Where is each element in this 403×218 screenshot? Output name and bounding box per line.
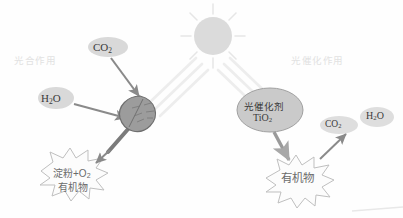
h2o-right-tail: O xyxy=(377,110,384,121)
co2-right-subscript: 2 xyxy=(338,122,341,129)
tio2-formula: TiO xyxy=(253,112,269,123)
photocatalyst-formula-label: TiO2 xyxy=(253,112,272,123)
h2o-left-tail: O xyxy=(53,92,61,104)
h2o-left-label: H2O xyxy=(41,92,61,106)
arrow-leaf-to-starch xyxy=(96,150,110,163)
light-beam-left xyxy=(148,58,208,116)
section-label-photocatalysis: 光催化作用 xyxy=(291,53,344,67)
arrow-organic-to-gases xyxy=(320,134,346,159)
starch-output-formula: 淀粉+O xyxy=(53,168,87,179)
tio2-subscript: 2 xyxy=(269,116,272,123)
sun-icon xyxy=(181,4,245,68)
h2o-left-formula: H xyxy=(41,92,49,104)
organic-matter-right-label: 有机物 xyxy=(281,169,314,185)
h2o-right-label: H2O xyxy=(366,110,384,121)
footer-rule xyxy=(352,207,403,211)
diagram-canvas: 光合作用 光催化作用 CO2 H2O CO2 H2O 光催化剂 TiO2 淀粉+… xyxy=(0,0,403,218)
co2-right-formula: CO xyxy=(325,119,338,129)
photocatalyst-name-label: 光催化剂 xyxy=(244,99,284,113)
organic-matter-left-label: 有机物 xyxy=(58,179,88,194)
section-label-photosynthesis: 光合作用 xyxy=(14,53,56,67)
arrow-h2o-to-leaf xyxy=(74,104,126,118)
co2-left-label: CO2 xyxy=(93,41,112,55)
leaf-icon xyxy=(108,96,155,152)
starch-output-label: 淀粉+O2 xyxy=(53,165,91,180)
arrow-co2-to-leaf xyxy=(111,58,139,96)
co2-right-label: CO2 xyxy=(325,119,341,129)
co2-left-formula: CO xyxy=(93,41,108,53)
co2-left-subscript: 2 xyxy=(108,46,112,55)
arrow-catalyst-to-organic xyxy=(274,132,289,160)
